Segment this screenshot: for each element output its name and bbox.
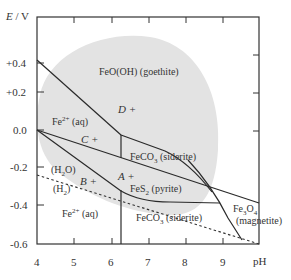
point-b: B +: [80, 175, 97, 187]
label-hydrogen: (H2): [53, 183, 70, 197]
y-tick-label: -0.4: [10, 199, 28, 211]
right-ticks: [253, 55, 259, 131]
point-c: C +: [81, 133, 99, 145]
region-label-fe2-aq-lower: Fe2+ (aq): [62, 207, 98, 220]
region-label-fe2-aq-upper: Fe2+ (aq): [52, 115, 88, 128]
y-tick-label: 0.0: [13, 124, 27, 136]
point-d: D +: [117, 103, 136, 115]
region-label-siderite-lower: FeCO3 (siderite): [136, 212, 202, 226]
x-tick-label: 9: [220, 256, 226, 268]
y-tick-label: +0.2: [6, 86, 26, 98]
y-axis-title: E / V: [5, 10, 29, 22]
y-tick-label: +0.4: [6, 57, 26, 69]
bottom-ticks: [74, 238, 223, 244]
pourbaix-diagram: E / V +0.4 +0.2 0.0 -0.2 -0.4 -0.6 4 5 6…: [0, 0, 291, 280]
x-tick-label: 7: [145, 256, 151, 268]
x-tick-label: 8: [182, 256, 188, 268]
region-label-goethite: FeO(OH) (goethite): [99, 66, 179, 78]
x-tick-label: 4: [34, 256, 40, 268]
y-tick-label: -0.2: [10, 161, 27, 173]
top-ticks: [74, 17, 223, 23]
y-tick-label: -0.6: [10, 238, 28, 250]
x-tick-label: 6: [108, 256, 114, 268]
x-axis-title: pH: [253, 255, 267, 267]
region-label-magnetite-name: (magnetite): [236, 215, 282, 227]
x-tick-label: 5: [71, 256, 77, 268]
point-a: A +: [117, 170, 135, 182]
